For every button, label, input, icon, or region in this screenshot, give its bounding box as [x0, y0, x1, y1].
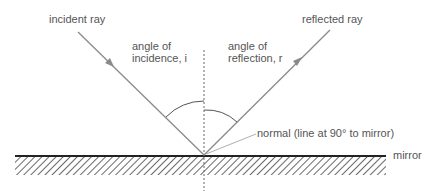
incident-ray-label: incident ray — [49, 13, 105, 26]
angle-incidence-label-2: incidence, i — [132, 52, 187, 65]
mirror-label: mirror — [393, 149, 422, 162]
normal-label: normal (line at 90° to mirror) — [257, 127, 394, 140]
normal-leader — [206, 134, 256, 154]
angle-reflection-arc — [204, 110, 237, 122]
angle-incidence-arc — [166, 101, 204, 117]
angle-reflection-label-2: reflection, r — [228, 52, 282, 65]
reflected-ray-label: reflected ray — [302, 13, 363, 26]
mirror-hatching — [15, 156, 386, 175]
reflection-diagram — [0, 0, 436, 191]
